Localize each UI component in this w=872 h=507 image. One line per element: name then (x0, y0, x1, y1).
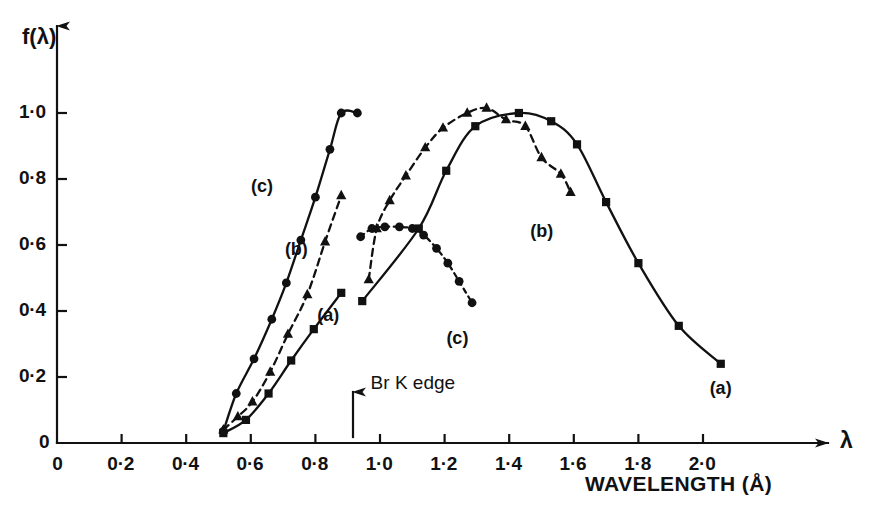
data-point-circle (455, 277, 464, 286)
data-point-triangle (565, 186, 575, 195)
data-point-triangle (283, 328, 293, 337)
y-axis-ticks (57, 113, 67, 377)
x-tick-label-4: 0·8 (301, 453, 328, 475)
x-tick-label-1: 0·2 (107, 453, 134, 475)
data-point-square (547, 117, 555, 125)
data-point-circle (282, 279, 291, 288)
x-axis-symbol: λ (840, 427, 853, 454)
data-point-square (634, 259, 642, 267)
y-tick-label-5: 1·0 (19, 101, 46, 123)
data-point-circle (267, 315, 276, 324)
data-point-square (264, 389, 272, 397)
series-line (223, 110, 357, 431)
y-tick-label-3: 0·6 (19, 233, 46, 255)
data-point-triangle (336, 190, 346, 199)
data-point-triangle (401, 170, 411, 179)
data-point-square (602, 198, 610, 206)
figure-root: 00·20·40·60·81·01·21·41·61·82·000·20·40·… (0, 0, 872, 507)
x-tick-label-2: 0·4 (172, 453, 199, 475)
data-point-triangle (364, 274, 374, 283)
data-point-triangle (520, 120, 530, 129)
data-point-circle (326, 145, 335, 154)
data-point-circle (395, 222, 404, 231)
data-point-square (287, 356, 295, 364)
data-point-circle (232, 389, 241, 398)
data-point-circle (443, 259, 452, 268)
x-tick-label-8: 1·6 (560, 453, 587, 475)
x-axis-ticks (122, 434, 703, 443)
y-axis-title: f(λ) (22, 24, 56, 50)
x-tick-label-6: 1·2 (430, 453, 457, 475)
curve-label-4: (b) (530, 221, 553, 242)
series-2 (219, 109, 362, 436)
data-point-triangle (302, 289, 312, 298)
data-point-circle (468, 298, 477, 307)
data-point-square (515, 109, 523, 117)
data-point-square (242, 416, 250, 424)
annotation-br-k-edge: Br K edge (371, 372, 456, 394)
data-point-circle (337, 109, 346, 118)
data-point-square (442, 167, 450, 175)
chart-canvas (0, 0, 872, 507)
data-point-triangle (320, 236, 330, 245)
data-point-circle (250, 354, 259, 363)
data-point-circle (432, 244, 441, 253)
data-point-square (471, 122, 479, 130)
data-point-circle (353, 109, 362, 118)
y-tick-label-0: 0 (39, 431, 49, 453)
data-point-circle (408, 224, 417, 233)
y-tick-label-4: 0·8 (19, 167, 46, 189)
data-point-square (675, 322, 683, 330)
data-point-circle (219, 427, 228, 436)
data-point-square (310, 325, 318, 333)
curve-label-0: (a) (317, 305, 339, 326)
series-4 (364, 102, 576, 283)
x-axis-title: WAVELENGTH (Å) (585, 472, 772, 496)
curve-label-5: (c) (446, 328, 468, 349)
x-tick-label-5: 1·0 (366, 453, 393, 475)
x-tick-label-3: 0·6 (237, 453, 264, 475)
curve-label-2: (c) (251, 176, 273, 197)
curve-label-1: (b) (285, 239, 308, 260)
data-point-triangle (247, 396, 257, 405)
data-point-triangle (438, 122, 448, 131)
data-point-circle (311, 193, 320, 202)
y-tick-label-1: 0·2 (19, 365, 46, 387)
series-line (361, 227, 472, 303)
x-tick-label-0: 0 (52, 453, 62, 475)
data-point-square (337, 289, 345, 297)
y-tick-label-2: 0·4 (19, 299, 46, 321)
x-tick-label-7: 1·4 (495, 453, 522, 475)
data-point-square (717, 360, 725, 368)
data-point-triangle (556, 168, 566, 177)
data-point-triangle (265, 366, 275, 375)
data-series-layer (218, 102, 725, 437)
data-point-square (358, 297, 366, 305)
data-point-circle (419, 231, 428, 240)
curve-label-3: (a) (710, 378, 732, 399)
data-point-square (573, 140, 581, 148)
data-point-circle (380, 222, 389, 231)
data-point-circle (368, 224, 377, 233)
data-point-circle (356, 232, 365, 241)
series-5 (356, 222, 476, 307)
